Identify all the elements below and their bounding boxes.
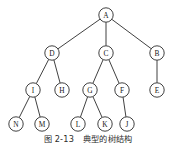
- edge-layer: [19, 19, 157, 117]
- node-label-n: N: [13, 120, 19, 129]
- node-label-d: D: [49, 49, 55, 58]
- tree-edge-a-d: [58, 19, 100, 49]
- tree-node-b[interactable]: B: [150, 46, 164, 60]
- tree-edge-d-i: [36, 59, 48, 83]
- tree-node-j[interactable]: J: [120, 117, 134, 131]
- tree-edge-d-h: [54, 60, 60, 83]
- tree-node-n[interactable]: N: [9, 117, 23, 131]
- node-label-c: C: [104, 49, 109, 58]
- node-label-e: E: [155, 86, 160, 95]
- tree-edge-g-l: [80, 97, 87, 117]
- node-label-g: G: [87, 86, 93, 95]
- tree-node-k[interactable]: K: [98, 117, 112, 131]
- tree-edge-i-m: [35, 97, 40, 117]
- tree-edge-g-k: [93, 97, 102, 118]
- tree-edge-f-j: [123, 97, 126, 117]
- tree-node-i[interactable]: I: [26, 83, 40, 97]
- tree-edge-a-b: [112, 19, 151, 48]
- node-label-j: J: [126, 120, 129, 129]
- figure-caption: 图 2-13典型的树结构: [0, 135, 176, 143]
- tree-node-f[interactable]: F: [115, 83, 129, 97]
- node-label-a: A: [103, 11, 109, 20]
- tree-node-e[interactable]: E: [150, 83, 164, 97]
- figure-caption-number: 图 2-13: [44, 134, 74, 143]
- tree-node-m[interactable]: M: [35, 117, 49, 131]
- node-label-b: B: [155, 49, 160, 58]
- node-label-k: K: [102, 120, 108, 129]
- tree-node-c[interactable]: C: [99, 46, 113, 60]
- tree-node-h[interactable]: H: [55, 83, 69, 97]
- tree-node-a[interactable]: A: [99, 8, 113, 22]
- tree-node-d[interactable]: D: [45, 46, 59, 60]
- tree-diagram: ADCBIHGFENMLKJ: [0, 0, 176, 143]
- tree-figure: ADCBIHGFENMLKJ 图 2-13典型的树结构: [0, 0, 176, 143]
- tree-edge-i-n: [19, 96, 30, 117]
- tree-node-g[interactable]: G: [83, 83, 97, 97]
- figure-caption-title: 典型的树结构: [83, 134, 132, 143]
- node-label-m: M: [39, 120, 46, 129]
- tree-edge-c-f: [109, 60, 119, 84]
- node-layer: ADCBIHGFENMLKJ: [9, 8, 164, 131]
- tree-node-l[interactable]: L: [71, 117, 85, 131]
- node-label-f: F: [120, 86, 124, 95]
- node-label-h: H: [59, 86, 65, 95]
- tree-edge-c-g: [93, 60, 103, 84]
- node-label-l: L: [76, 120, 81, 129]
